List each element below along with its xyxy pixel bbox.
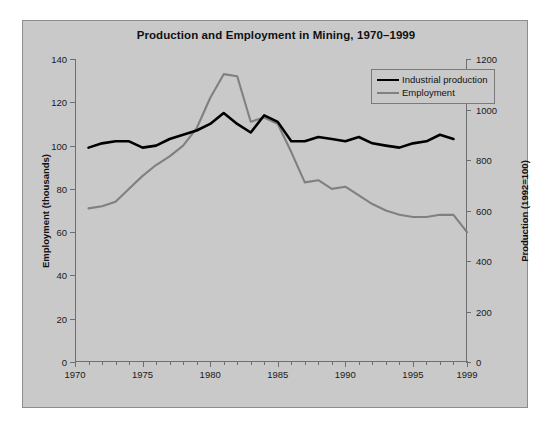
y-axis-right-tick-label: 1000	[476, 104, 497, 115]
y-axis-right-tick-label: 1200	[476, 54, 497, 65]
y-axis-left-tick-label: 140	[51, 54, 67, 65]
y-axis-left-tick-label: 100	[51, 140, 67, 151]
y-axis-right-tick-label: 800	[476, 155, 492, 166]
y-axis-left-tick-label: 60	[56, 227, 67, 238]
series-line-industrial-production	[89, 113, 454, 148]
y-axis-right-title: Production (1992=100)	[519, 160, 530, 262]
y-axis-left-tick-label: 20	[56, 313, 67, 324]
y-axis-left-tick-label: 120	[51, 97, 67, 108]
plot-area: Employment (thousands) Production (1992=…	[75, 59, 467, 362]
x-axis-tick-label: 1985	[267, 369, 288, 380]
x-axis-tick-label: 1980	[200, 369, 221, 380]
legend-swatch-industrial-production	[377, 79, 399, 81]
x-axis-tick-label: 1999	[456, 369, 477, 380]
y-axis-right-tick-label: 200	[476, 306, 492, 317]
y-axis-right-tick-label: 600	[476, 205, 492, 216]
data-lines	[75, 59, 467, 362]
legend-label-employment: Employment	[402, 87, 455, 98]
chart-title: Production and Employment in Mining, 197…	[23, 29, 529, 41]
legend-item-industrial-production: Industrial production	[377, 73, 488, 86]
y-axis-right-tick-label: 0	[476, 357, 481, 368]
legend-label-industrial-production: Industrial production	[402, 74, 488, 85]
y-axis-right-tick-label: 400	[476, 256, 492, 267]
y-axis-left-tick-label: 0	[62, 357, 67, 368]
x-axis-major-tick	[467, 361, 468, 367]
legend-item-employment: Employment	[377, 86, 488, 99]
legend-swatch-employment	[377, 92, 399, 94]
y-axis-left-title: Employment (thousands)	[40, 153, 51, 267]
x-axis-tick-label: 1975	[132, 369, 153, 380]
y-axis-left-tick-label: 80	[56, 183, 67, 194]
x-axis-tick-label: 1995	[402, 369, 423, 380]
legend: Industrial production Employment	[371, 69, 495, 104]
y-axis-left-tick-label: 40	[56, 270, 67, 281]
chart-frame: Production and Employment in Mining, 197…	[22, 20, 528, 408]
x-axis-tick-label: 1970	[64, 369, 85, 380]
x-axis-tick-label: 1990	[335, 369, 356, 380]
